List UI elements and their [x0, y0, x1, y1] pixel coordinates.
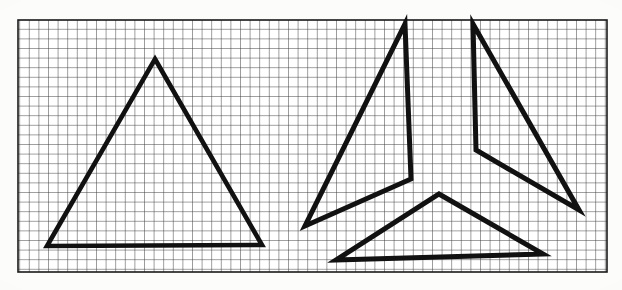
figure-canvas [0, 0, 622, 290]
figure-container [0, 0, 622, 290]
